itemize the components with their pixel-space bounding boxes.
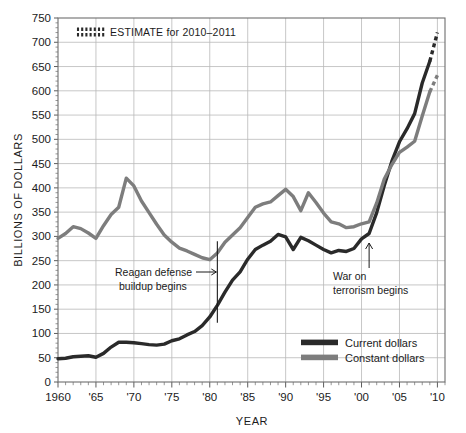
- x-axis-tick-label: 1960: [45, 391, 71, 403]
- y-axis-tick-label: 250: [32, 255, 51, 267]
- y-axis-tick-label: 750: [32, 12, 51, 24]
- x-axis-ticks-group: [58, 382, 445, 388]
- y-axis-tick-label: 100: [32, 327, 51, 339]
- y-axis-tick-label: 400: [32, 182, 51, 194]
- reagan-annotation-line2: buildup begins: [119, 280, 187, 292]
- x-axis-tick-label: '75: [164, 391, 179, 403]
- legend-swatch-constant-dollars: [301, 355, 338, 361]
- legend-label-constant-dollars: Constant dollars: [345, 352, 425, 364]
- x-axis-tick-label: '90: [278, 391, 293, 403]
- y-axis-tick-label: 550: [32, 109, 51, 121]
- legend-swatches-group: [301, 340, 338, 361]
- series-estimate-current-dollars: [430, 33, 438, 62]
- y-axis-tick-label: 300: [32, 230, 51, 242]
- y-axis-tick-label: 150: [32, 303, 51, 315]
- y-axis-tick-label: 600: [32, 85, 51, 97]
- y-axis-tick-label: 500: [32, 133, 51, 145]
- y-axis-tick-label: 50: [38, 352, 51, 364]
- x-axis-tick-label: '70: [126, 391, 141, 403]
- reagan-annotation-line1: Reagan defense: [115, 266, 192, 278]
- y-axis-tick-label: 350: [32, 206, 51, 218]
- plot-frame: [58, 18, 445, 382]
- annotation-reagan-defense-buildup: Reagan defense buildup begins: [115, 241, 217, 323]
- legend-labels-group: Current dollarsConstant dollars: [345, 337, 425, 364]
- chart-legend: Current dollarsConstant dollars: [301, 337, 425, 364]
- y-axis-title: BILLIONS OF DOLLARS: [12, 133, 24, 267]
- series-line-constant-dollars: [58, 92, 430, 260]
- y-axis-tick-label: 0: [45, 376, 51, 388]
- x-axis-tick-label: '85: [240, 391, 255, 403]
- y-axis-tick-labels-group: 0501001502002503003504004505005506006507…: [32, 12, 51, 388]
- estimate-note-text: ESTIMATE for 2010–2011: [110, 26, 236, 38]
- legend-label-current-dollars: Current dollars: [345, 337, 418, 349]
- x-axis-tick-label: '65: [88, 391, 103, 403]
- estimate-hatch-swatch: [78, 28, 103, 37]
- defense-spending-line-chart: 0501001502002503003504004505005506006507…: [0, 0, 466, 433]
- x-axis-tick-labels-group: 1960'65'70'75'80'85'90'95'00'05'10: [45, 391, 445, 403]
- y-axis-tick-label: 450: [32, 158, 51, 170]
- chart-figure: 0501001502002503003504004505005506006507…: [0, 0, 466, 433]
- series-estimate-constant-dollars: [430, 75, 438, 92]
- war-arrow-line: [366, 243, 373, 268]
- estimate-note: ESTIMATE for 2010–2011: [78, 26, 236, 38]
- reagan-leader-line: [196, 269, 216, 275]
- legend-swatch-current-dollars: [301, 340, 338, 346]
- x-axis-title: YEAR: [236, 415, 268, 427]
- x-axis-tick-label: '00: [354, 391, 369, 403]
- y-axis-tick-label: 700: [32, 36, 51, 48]
- y-axis-ticks-group: [54, 18, 58, 382]
- war-annotation-line2: terrorism begins: [333, 284, 408, 296]
- y-axis-tick-label: 650: [32, 61, 51, 73]
- war-annotation-line1: War on: [333, 270, 367, 282]
- x-axis-tick-label: '05: [392, 391, 407, 403]
- y-axis-tick-label: 200: [32, 279, 51, 291]
- x-axis-tick-label: '10: [430, 391, 445, 403]
- x-axis-tick-label: '95: [316, 391, 331, 403]
- x-axis-tick-label: '80: [202, 391, 217, 403]
- gridlines-group: [58, 18, 445, 382]
